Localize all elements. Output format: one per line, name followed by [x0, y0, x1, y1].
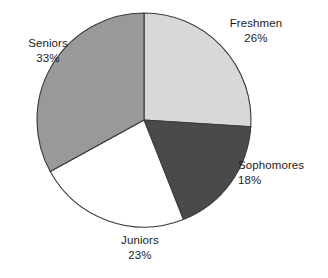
pie-label-sophomores-name: Sophomores: [238, 158, 328, 173]
pie-label-juniors: Juniors 23%: [98, 233, 182, 262]
pie-label-freshmen-name: Freshmen: [208, 16, 304, 31]
pie-label-freshmen: Freshmen 26%: [208, 16, 304, 45]
pie-label-seniors-name: Seniors: [6, 36, 90, 51]
pie-chart-figure: Freshmen 26% Sophomores 18% Juniors 23% …: [0, 0, 328, 278]
pie-label-juniors-name: Juniors: [98, 233, 182, 248]
pie-label-seniors-value: 33%: [6, 51, 90, 66]
pie-label-seniors: Seniors 33%: [6, 36, 90, 65]
pie-label-freshmen-value: 26%: [208, 31, 304, 46]
pie-label-sophomores: Sophomores 18%: [238, 158, 328, 187]
pie-label-sophomores-value: 18%: [238, 173, 328, 188]
pie-label-juniors-value: 23%: [98, 248, 182, 263]
